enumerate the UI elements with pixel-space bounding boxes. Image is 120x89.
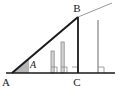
vertex-label-a: A: [2, 76, 10, 88]
vertex-label-c: C: [73, 76, 80, 88]
bar-2: [61, 42, 64, 73]
bar-1: [51, 51, 54, 73]
hypotenuse-ab: [12, 17, 78, 73]
geometry-diagram-canvas: A B C A: [0, 0, 120, 89]
bar-group: [51, 20, 98, 73]
right-angle-bar-4: [98, 67, 104, 73]
geometry-figure: A B C A: [0, 0, 120, 89]
hypotenuse-extension-line: [78, 3, 112, 17]
vertex-label-b: B: [73, 2, 80, 14]
angle-label-a: A: [29, 59, 37, 70]
